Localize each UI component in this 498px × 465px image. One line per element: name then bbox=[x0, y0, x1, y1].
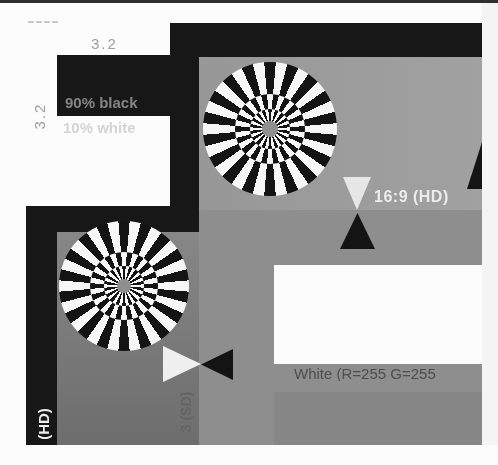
star-phase-ring bbox=[90, 252, 158, 320]
photo-margin-bottom bbox=[0, 445, 498, 465]
sd-safe-area-label-vertical: 3 (SD) bbox=[179, 392, 193, 432]
star-phase-ring bbox=[104, 266, 143, 305]
star-phase-ring bbox=[235, 94, 305, 164]
registration-dash-mark bbox=[28, 21, 58, 23]
white-patch-label: 10% white bbox=[63, 120, 136, 135]
black-frame-top-band bbox=[170, 23, 482, 57]
white-reference-label: White (R=255 G=255 bbox=[294, 366, 482, 381]
lower-gray-band bbox=[274, 392, 482, 452]
siemens-star-icon bbox=[203, 62, 337, 196]
siemens-star-icon bbox=[59, 221, 189, 351]
test-chart-content: 3.2 3.2 90% black 10% white 16:9 (HD) (H… bbox=[0, 0, 498, 465]
star-phase-ring bbox=[250, 109, 290, 149]
test-chart-photo: 3.2 3.2 90% black 10% white 16:9 (HD) (H… bbox=[0, 0, 498, 465]
hd-safe-area-label: 16:9 (HD) bbox=[374, 189, 449, 205]
black-patch-label: 90% black bbox=[65, 95, 138, 110]
resolution-value-label: 3.2 bbox=[91, 36, 118, 51]
hd-safe-area-label-vertical: (HD) bbox=[36, 408, 51, 440]
photo-top-edge bbox=[0, 0, 498, 3]
white-reference-patch bbox=[274, 265, 482, 364]
resolution-value-label-vertical: 3.2 bbox=[32, 103, 47, 130]
star-center-dot bbox=[262, 121, 277, 136]
star-center-dot bbox=[117, 279, 132, 294]
photo-margin-right bbox=[482, 0, 498, 465]
